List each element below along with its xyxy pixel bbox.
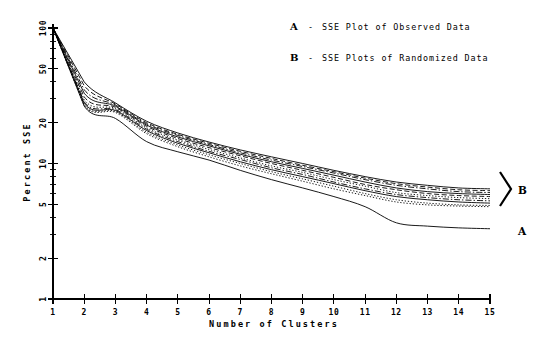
legend-dash-a: - xyxy=(308,22,314,32)
legend-dash-b: - xyxy=(308,53,314,63)
y-axis-title: Percent SSE xyxy=(22,122,32,201)
x-tick-label-7: 7 xyxy=(238,308,243,317)
x-tick-label-11: 11 xyxy=(360,308,371,317)
x-tick-label-10: 10 xyxy=(329,308,340,317)
legend-key-b: B xyxy=(290,52,298,63)
x-tick-label-12: 12 xyxy=(391,308,402,317)
callout-label-a: A xyxy=(517,225,527,237)
callout-label-b: B xyxy=(518,184,527,196)
y-tick-label-2: 2 xyxy=(39,255,48,260)
x-tick-label-6: 6 xyxy=(206,308,211,317)
y-axis-ticks xyxy=(48,28,58,299)
sse-scree-chart: 100502010521 123456789101112131415 Numbe… xyxy=(0,0,552,344)
x-tick-label-4: 4 xyxy=(144,308,149,317)
x-axis-title: Number of Clusters xyxy=(209,319,339,329)
legend-key-a: A xyxy=(289,21,298,32)
x-tick-label-3: 3 xyxy=(113,308,118,317)
chart-canvas: 100502010521 123456789101112131415 Numbe… xyxy=(0,0,552,344)
x-tick-label-5: 5 xyxy=(175,308,180,317)
x-tick-label-15: 15 xyxy=(485,308,496,317)
x-tick-label-14: 14 xyxy=(453,308,464,317)
y-tick-label-20: 20 xyxy=(39,117,48,128)
y-tick-label-10: 10 xyxy=(39,158,48,169)
y-tick-label-100: 100 xyxy=(39,20,48,36)
y-tick-label-5: 5 xyxy=(39,202,48,207)
y-tick-label-50: 50 xyxy=(39,63,48,74)
chart-background xyxy=(0,0,552,344)
x-tick-label-2: 2 xyxy=(82,308,87,317)
x-axis-tick-labels: 123456789101112131415 xyxy=(50,308,495,317)
x-tick-label-13: 13 xyxy=(422,308,433,317)
legend-label-b: SSE Plots of Randomized Data xyxy=(322,53,488,63)
x-tick-label-9: 9 xyxy=(300,308,305,317)
x-tick-label-8: 8 xyxy=(269,308,274,317)
x-tick-label-1: 1 xyxy=(50,308,55,317)
y-tick-label-1: 1 xyxy=(39,296,48,301)
legend-label-a: SSE Plot of Observed Data xyxy=(322,22,471,32)
